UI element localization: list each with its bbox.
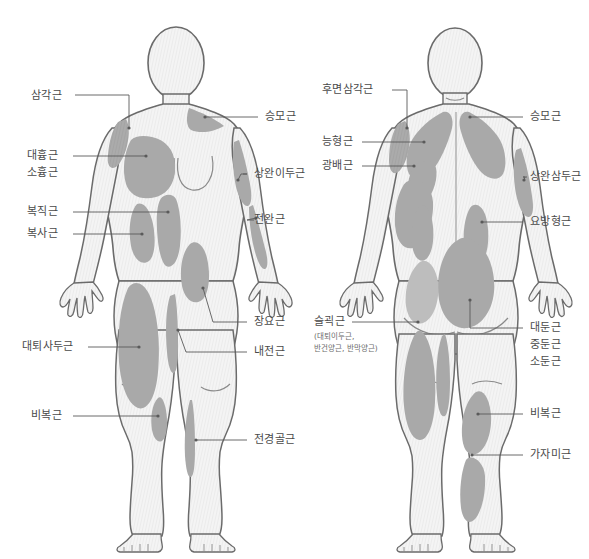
label-front-forearm: 전완근 (254, 212, 285, 227)
label-back-gluteus-maximus: 대둔근 (530, 320, 561, 335)
label-front-pectoralis-minor: 소흉근 (27, 165, 58, 180)
front-view-figure (60, 27, 292, 552)
label-back-soleus: 가자미근 (530, 447, 571, 462)
label-front-gastrocnemius: 비복근 (31, 408, 62, 423)
muscle-anatomy-diagram: 삼각근 대흉근 소흉근 복직근 복사근 대퇴사두근 비복근 승모근 상완이두근 … (0, 0, 589, 559)
label-back-hamstrings: 슬괵근 (314, 314, 345, 329)
label-back-gluteus-medius: 중둔근 (530, 337, 561, 352)
label-back-trapezius: 승모근 (530, 109, 561, 124)
label-back-quadratus-lumborum: 요방형근 (530, 214, 571, 229)
label-front-tibialis-anterior: 전경골근 (254, 432, 295, 447)
front-body-outline (60, 27, 292, 552)
label-front-obliques: 복사근 (27, 226, 58, 241)
label-front-pectoralis-major: 대흉근 (27, 148, 58, 163)
label-back-hamstrings-sub-2: 반건양근, 반막양근) (314, 344, 378, 354)
label-back-posterior-deltoid: 후면삼각근 (322, 82, 374, 97)
label-back-gluteus-minimus: 소둔근 (530, 354, 561, 369)
label-front-deltoid: 삼각근 (31, 88, 62, 103)
diagram-canvas (0, 0, 589, 559)
back-view-figure (340, 28, 572, 552)
label-back-gastrocnemius: 비복근 (530, 406, 561, 421)
label-front-rectus-abdominis: 복직근 (27, 204, 58, 219)
label-front-trapezius: 승모근 (265, 109, 296, 124)
label-back-rhomboids: 능형근 (322, 134, 353, 149)
label-back-triceps-brachii: 상완삼두근 (530, 169, 582, 184)
muscle-pectoralis-major (124, 136, 175, 198)
label-front-adductors: 내전근 (254, 344, 285, 359)
label-front-quadriceps: 대퇴사두근 (22, 339, 74, 354)
label-front-biceps-brachii: 상완이두근 (254, 166, 306, 181)
label-back-latissimus-dorsi: 광배근 (322, 158, 353, 173)
label-back-hamstrings-sub-1: (대퇴이두근, (314, 332, 354, 342)
label-front-iliopsoas: 장요근 (254, 314, 285, 329)
